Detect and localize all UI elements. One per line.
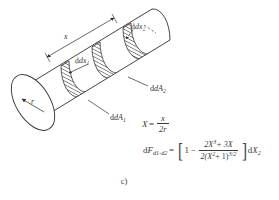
eq2-bracket-contents: 1 − 2X3+ 3X 2(X2+ 1)3/2: [184, 139, 241, 162]
eq1-denominator: 2r: [157, 123, 169, 133]
eq1-fraction: x 2r: [157, 114, 169, 134]
label-radius-r: r: [31, 97, 34, 106]
eq2-lhs: dFd1-d2: [143, 145, 167, 156]
dimension-x-tick-left: [45, 53, 50, 62]
label-dA2: ddA2: [150, 84, 166, 94]
eq2-bracket-left: [: [177, 143, 182, 158]
figure-root: x r ddx1 ddx2 ddA1 ddA2 X = x 2r dFd1-d2…: [0, 0, 279, 200]
figure-caption: c): [0, 176, 248, 186]
eq1-equals: =: [148, 119, 156, 129]
eq2-numerator: 2X3+ 3X: [202, 139, 234, 150]
label-dx2: ddx2: [131, 22, 146, 32]
eq2-fraction: 2X3+ 3X 2(X2+ 1)3/2: [199, 139, 239, 162]
equation-X-definition: X = x 2r: [142, 114, 279, 134]
label-dA1: ddA1: [110, 113, 126, 123]
eq2-denominator: 2(X2+ 1)3/2: [199, 150, 239, 162]
label-length-x: x: [64, 32, 68, 41]
eq2-trailing: dX2: [248, 145, 261, 156]
equation-block: X = x 2r dFd1-d2 = [ 1 − 2X3+ 3X 2(X2+ 1…: [142, 114, 279, 162]
eq2-equals: =: [167, 145, 175, 155]
eq1-numerator: x: [159, 114, 167, 123]
equation-view-factor: dFd1-d2 = [ 1 − 2X3+ 3X 2(X2+ 1)3/2 ] dX…: [143, 139, 279, 162]
eq2-bracket-right: ]: [242, 143, 247, 158]
label-dx1: ddx1: [75, 56, 90, 66]
leader-dA2-line: [128, 77, 148, 86]
eq2-minus: −: [189, 145, 197, 155]
leader-dA1-line: [88, 100, 109, 114]
